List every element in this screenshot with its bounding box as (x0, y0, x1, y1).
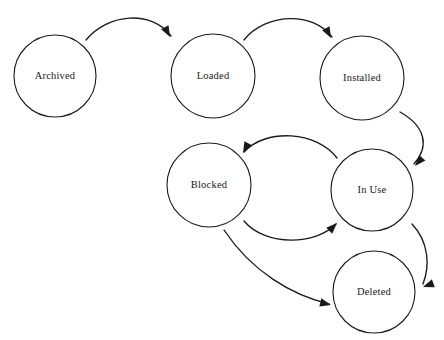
nodes-layer: ArchivedLoadedInstalledBlockedIn UseDele… (14, 34, 415, 333)
state-node-label: Loaded (197, 70, 230, 81)
edge-line (412, 224, 427, 284)
state-node-label: Installed (343, 72, 382, 83)
arrowhead-icon (319, 298, 332, 309)
state-node-installed[interactable]: Installed (320, 36, 404, 120)
edge-loaded-to-installed (244, 19, 335, 40)
state-node-label: In Use (358, 184, 387, 195)
state-diagram-canvas: ArchivedLoadedInstalledBlockedIn UseDele… (0, 0, 444, 340)
arrowhead-icon (239, 141, 252, 155)
edge-inuse-to-deleted (412, 224, 435, 291)
edge-blocked-to-deleted (224, 230, 332, 309)
edge-blocked-to-inuse (244, 220, 340, 240)
arrowhead-icon (326, 220, 340, 234)
state-node-blocked[interactable]: Blocked (167, 143, 251, 227)
edge-archived-to-loaded (86, 18, 174, 40)
state-diagram-svg: ArchivedLoadedInstalledBlockedIn UseDele… (0, 0, 444, 340)
edge-line (224, 230, 329, 304)
state-node-label: Deleted (357, 286, 392, 297)
state-node-label: Archived (35, 70, 76, 81)
state-node-deleted[interactable]: Deleted (333, 251, 415, 333)
arrowhead-icon (412, 155, 426, 169)
edge-line (244, 136, 337, 158)
edge-line (244, 19, 332, 40)
state-node-archived[interactable]: Archived (14, 35, 96, 117)
edge-installed-to-inuse (400, 112, 425, 169)
edge-inuse-to-blocked (239, 136, 337, 158)
edge-line (86, 18, 171, 40)
edge-line (244, 221, 336, 240)
state-node-inuse[interactable]: In Use (331, 149, 413, 231)
state-node-loaded[interactable]: Loaded (171, 34, 255, 118)
state-node-label: Blocked (191, 179, 228, 190)
